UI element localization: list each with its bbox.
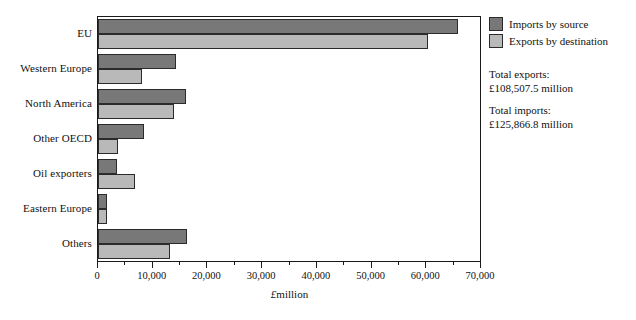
- bar-exports: [98, 244, 170, 259]
- x-tick-label: 50,000: [356, 270, 385, 282]
- bar-imports: [98, 194, 107, 209]
- total-exports-label: Total exports:: [489, 68, 634, 82]
- x-axis-title-text: million: [276, 288, 308, 300]
- x-tick-label: 10,000: [137, 270, 166, 282]
- x-tick-minor: [289, 262, 290, 265]
- bar-exports: [98, 209, 107, 224]
- x-tick-label: 0: [94, 270, 99, 282]
- x-tick-label: 70,000: [466, 270, 495, 282]
- bars-layer: [98, 17, 481, 261]
- x-tick-major: [316, 262, 317, 268]
- x-tick-major: [206, 262, 207, 268]
- x-tick-minor: [343, 262, 344, 265]
- legend-label: Imports by source: [509, 18, 588, 31]
- x-tick-major: [97, 262, 98, 268]
- x-tick-minor: [124, 262, 125, 265]
- category-label: Eastern Europe: [0, 202, 92, 214]
- total-imports-block: Total imports: £125,866.8 million: [489, 104, 634, 131]
- totals-annotation: Total exports: £108,507.5 million Total …: [489, 68, 634, 140]
- category-label: EU: [0, 27, 92, 39]
- x-tick-label: 40,000: [301, 270, 330, 282]
- legend-item: Imports by source: [489, 17, 634, 31]
- x-tick-label: 60,000: [411, 270, 440, 282]
- bar-imports: [98, 54, 176, 69]
- x-tick-minor: [453, 262, 454, 265]
- total-exports-block: Total exports: £108,507.5 million: [489, 68, 634, 95]
- x-axis-title: £million: [97, 288, 482, 300]
- x-tick-minor: [179, 262, 180, 265]
- legend-label: Exports by destination: [509, 35, 608, 48]
- legend-item: Exports by destination: [489, 34, 634, 48]
- bar-exports: [98, 104, 174, 119]
- bar-imports: [98, 89, 186, 104]
- x-tick-label: 30,000: [247, 270, 276, 282]
- legend-swatch-imports: [489, 17, 503, 31]
- x-tick-major: [480, 262, 481, 268]
- x-tick-minor: [234, 262, 235, 265]
- legend-swatch-exports: [489, 34, 503, 48]
- total-imports-value: £125,866.8 million: [489, 118, 634, 132]
- x-tick-label: 20,000: [192, 270, 221, 282]
- category-axis: EUWestern EuropeNorth AmericaOther OECDO…: [0, 16, 92, 262]
- category-label: North America: [0, 97, 92, 109]
- chart-page: EUWestern EuropeNorth AmericaOther OECDO…: [0, 0, 636, 320]
- total-imports-label: Total imports:: [489, 104, 634, 118]
- bar-imports: [98, 19, 458, 34]
- x-tick-major: [152, 262, 153, 268]
- category-label: Other OECD: [0, 132, 92, 144]
- category-label: Oil exporters: [0, 167, 92, 179]
- category-label: Others: [0, 237, 92, 249]
- total-exports-value: £108,507.5 million: [489, 82, 634, 96]
- x-tick-major: [261, 262, 262, 268]
- bar-exports: [98, 34, 428, 49]
- x-tick-minor: [398, 262, 399, 265]
- x-tick-major: [425, 262, 426, 268]
- bar-imports: [98, 229, 187, 244]
- bar-exports: [98, 174, 135, 189]
- bar-exports: [98, 139, 118, 154]
- x-tick-major: [371, 262, 372, 268]
- bar-imports: [98, 159, 117, 174]
- bar-exports: [98, 69, 142, 84]
- chart-legend: Imports by sourceExports by destination: [489, 17, 634, 51]
- bar-imports: [98, 124, 144, 139]
- x-axis: 010,00020,00030,00040,00050,00060,00070,…: [97, 262, 482, 263]
- category-label: Western Europe: [0, 62, 92, 74]
